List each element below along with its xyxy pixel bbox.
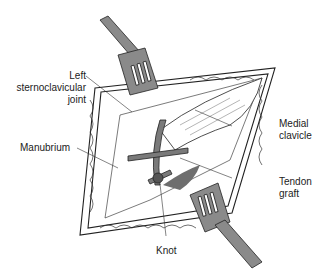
retractor-top <box>100 16 158 95</box>
knot <box>153 173 163 183</box>
label-left-sternoclavicular-joint: Left sternoclavicular joint <box>6 70 86 106</box>
surgical-diagram <box>0 0 326 273</box>
label-manubrium: Manubrium <box>20 142 70 154</box>
label-tendon-graft: Tendon graft <box>279 176 312 200</box>
label-knot: Knot <box>156 245 177 257</box>
label-medial-clavicle: Medial clavicle <box>279 118 312 142</box>
